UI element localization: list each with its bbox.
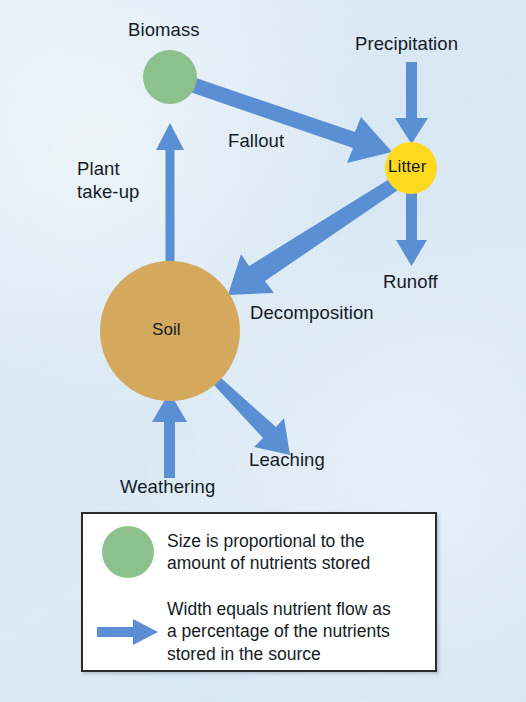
flow-arrow-runoff bbox=[396, 192, 427, 266]
legend-box: Size is proportional to the amount of nu… bbox=[81, 512, 437, 672]
legend-size-text: Size is proportional to the amount of nu… bbox=[167, 530, 370, 575]
legend-flow-line2: a percentage of the nutrients bbox=[167, 620, 391, 642]
node-label-litter: Litter bbox=[388, 158, 426, 176]
flow-label-fallout: Fallout bbox=[228, 131, 284, 151]
node-label-biomass: Biomass bbox=[128, 20, 200, 40]
flow-arrow-plant-take-up bbox=[156, 123, 184, 262]
legend-arrow-glyph bbox=[89, 616, 167, 648]
flow-label-leaching: Leaching bbox=[249, 450, 325, 470]
legend-flow-text: Width equals nutrient flow as a percenta… bbox=[167, 598, 391, 665]
legend-flow-line3: stored in the source bbox=[167, 643, 391, 665]
flow-arrow-leaching bbox=[214, 378, 290, 455]
flow-label-plant-take-up-line1: Plant bbox=[77, 159, 120, 179]
flow-label-plant-take-up-line2: take-up bbox=[77, 182, 139, 202]
nutrient-cycle-figure: Biomass Litter Soil Plant take-up Fallou… bbox=[0, 0, 526, 702]
legend-entry-size: Size is proportional to the amount of nu… bbox=[89, 526, 433, 578]
legend-arrow-icon bbox=[95, 616, 161, 648]
legend-size-line2: amount of nutrients stored bbox=[167, 552, 370, 574]
flow-arrow-decomposition bbox=[228, 178, 398, 295]
flow-arrow-fallout bbox=[190, 77, 392, 163]
legend-size-line1: Size is proportional to the bbox=[167, 530, 370, 552]
legend-circle-glyph bbox=[89, 526, 167, 578]
flow-label-weathering: Weathering bbox=[120, 477, 215, 497]
legend-flow-line1: Width equals nutrient flow as bbox=[167, 598, 391, 620]
flow-label-precipitation: Precipitation bbox=[355, 34, 458, 54]
flow-arrow-precipitation bbox=[395, 62, 428, 144]
flow-label-runoff: Runoff bbox=[383, 272, 438, 292]
flow-arrow-weathering bbox=[152, 392, 187, 478]
node-label-soil: Soil bbox=[152, 321, 181, 339]
legend-entry-flow: Width equals nutrient flow as a percenta… bbox=[89, 598, 433, 665]
flow-label-decomposition: Decomposition bbox=[250, 303, 374, 323]
node-circle-biomass bbox=[143, 50, 197, 104]
